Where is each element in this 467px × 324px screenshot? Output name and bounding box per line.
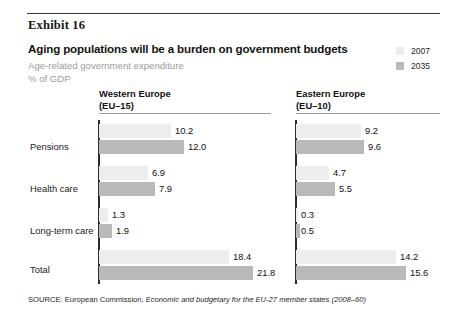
bar-value-west-total-2007: 18.4 [233,250,251,264]
bar-east-total-2035 [296,266,406,280]
bar-value-east-pensions-2007: 9.2 [365,124,378,138]
legend-label-2035: 2035 [411,61,430,71]
row-label-health-care: Health care [30,183,78,194]
source-note: SOURCE: European Commission, Economic an… [28,295,366,304]
bar-value-west-health-2007: 6.9 [152,166,165,180]
bar-value-west-health-2035: 7.9 [159,182,172,196]
bar-west-pensions-2035 [99,140,184,154]
bar-west-health-2007 [99,166,148,180]
bar-west-longterm-2035 [99,224,112,238]
row-label-total: Total [30,264,50,275]
bar-west-total-2035 [99,266,253,280]
source-citation: Economic and budgetary for the EU-27 mem… [146,295,366,304]
chart-subtitle: Age-related government expenditure [28,60,184,71]
bar-east-health-2035 [296,182,335,196]
chart-legend: 2007 2035 [396,44,430,74]
bar-value-west-longterm-2007: 1.3 [112,208,125,222]
bar-east-pensions-2007 [296,124,361,138]
exhibit-top-rule [27,13,440,14]
bar-west-pensions-2007 [99,124,171,138]
panel-rule-western-europe [99,113,271,114]
bar-east-total-2007 [296,250,396,264]
bar-value-east-total-2035: 15.6 [410,266,428,280]
panel-title-western-europe: Western Europe [99,88,171,100]
panel-title-eastern-europe: Eastern Europe [296,88,365,100]
source-prefix: SOURCE: European Commission, [28,295,146,304]
bar-value-east-health-2007: 4.7 [333,166,346,180]
panel-header-western-europe: Western Europe (EU–15) [99,88,171,111]
bar-east-pensions-2035 [296,140,364,154]
bar-value-west-total-2035: 21.8 [257,266,275,280]
bar-value-east-longterm-2035: 0.5 [301,224,314,238]
bar-east-longterm-2035 [296,224,300,238]
chart-units-label: % of GDP [28,73,71,84]
panel-rule-eastern-europe [296,113,440,114]
bar-value-east-pensions-2035: 9.6 [368,140,381,154]
legend-label-2007: 2007 [411,46,430,56]
bar-value-east-health-2035: 5.5 [339,182,352,196]
chart-title: Aging populations will be a burden on go… [28,42,347,55]
row-label-long-term-care: Long-term care [30,225,94,236]
legend-item-2035: 2035 [396,59,430,72]
row-label-pensions: Pensions [30,141,69,152]
legend-swatch-2035 [396,62,404,70]
panel-subtitle-western-europe: (EU–15) [99,100,171,112]
legend-item-2007: 2007 [396,44,430,57]
bar-value-west-pensions-2035: 12.0 [188,140,206,154]
bar-east-longterm-2007 [296,208,298,222]
bar-west-health-2035 [99,182,155,196]
bar-west-longterm-2007 [99,208,108,222]
bar-value-west-longterm-2035: 1.9 [116,224,129,238]
panel-subtitle-eastern-europe: (EU–10) [296,100,365,112]
legend-swatch-2007 [396,47,404,55]
bar-west-total-2007 [99,250,229,264]
bar-value-west-pensions-2007: 10.2 [175,124,193,138]
bar-value-east-longterm-2007: 0.3 [301,208,314,222]
exhibit-label: Exhibit 16 [28,18,85,33]
panel-header-eastern-europe: Eastern Europe (EU–10) [296,88,365,111]
bar-east-health-2007 [296,166,329,180]
bar-value-east-total-2007: 14.2 [400,250,418,264]
